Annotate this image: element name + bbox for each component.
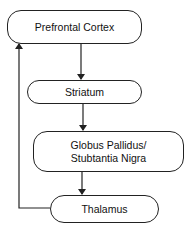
node-label: Prefrontal Cortex xyxy=(35,21,114,34)
node-label: Thalamus xyxy=(81,203,127,216)
node-prefrontal-cortex: Prefrontal Cortex xyxy=(7,10,142,44)
node-label: Globus Pallidus/ Stubtantia Nigra xyxy=(64,139,154,165)
node-thalamus: Thalamus xyxy=(50,195,159,223)
node-label: Striatum xyxy=(65,86,104,99)
edge-thalamus-pfc-feedback xyxy=(19,44,50,208)
node-globus-pallidus-substantia-nigra: Globus Pallidus/ Stubtantia Nigra xyxy=(33,131,184,172)
node-striatum: Striatum xyxy=(27,80,142,104)
